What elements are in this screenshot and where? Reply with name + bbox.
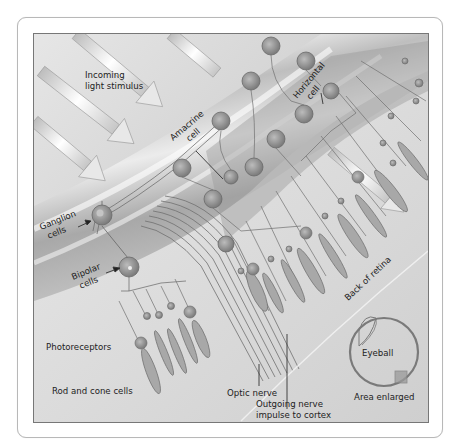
retina-illustration: Incoming light stimulus Amacrine cell Ho… (34, 34, 428, 422)
retina-diagram-panel: Incoming light stimulus Amacrine cell Ho… (33, 33, 429, 423)
label-photoreceptors: Photoreceptors (46, 342, 112, 352)
label-eyeball: Eyeball (362, 348, 393, 358)
label-optic-nerve: Optic nerve (227, 388, 277, 398)
label-incoming-light: Incoming (85, 70, 125, 80)
area-enlarged-marker (395, 371, 407, 383)
horizontal-cell (323, 83, 339, 99)
label-incoming-light-2: light stimulus (85, 81, 144, 91)
label-outgoing: Outgoing nerve (256, 399, 323, 409)
label-area-enlarged: Area enlarged (354, 392, 414, 402)
label-rod-cone: Rod and cone cells (52, 386, 133, 396)
label-outgoing-2: impulse to cortex (256, 410, 331, 420)
amacrine-cell (224, 170, 238, 184)
